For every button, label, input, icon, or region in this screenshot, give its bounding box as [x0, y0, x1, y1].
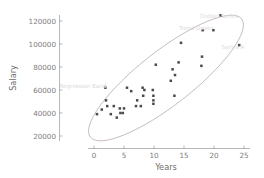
y-axis: 20000400006000080000100000120000 Salary — [8, 15, 63, 141]
x-axis: 0510152025 Years — [88, 146, 250, 173]
annotation-mid-right: Trend Upper — [178, 25, 214, 32]
data-point — [135, 105, 138, 108]
y-axis-tick-labels: 20000400006000080000100000120000 — [29, 17, 57, 141]
data-point — [106, 105, 109, 108]
confidence-ellipse-path — [74, 0, 259, 158]
data-point — [136, 99, 139, 102]
data-point — [171, 68, 174, 71]
y-tick-label: 20000 — [33, 132, 56, 141]
data-point — [119, 107, 122, 110]
x-tick-label: 15 — [179, 151, 188, 160]
data-point — [155, 63, 158, 65]
data-point — [122, 112, 125, 115]
data-point — [174, 74, 177, 77]
data-point — [101, 108, 104, 111]
data-point — [140, 105, 143, 108]
x-tick-label: 25 — [239, 151, 248, 160]
data-point — [152, 103, 155, 106]
annotation-upper-right: Outlier Series — [200, 13, 238, 19]
data-point — [180, 42, 183, 45]
data-point — [141, 86, 144, 89]
x-axis-tick-labels: 0510152025 — [92, 151, 249, 160]
plot-canvas: 20000400006000080000100000120000 Salary … — [0, 0, 264, 178]
data-point — [152, 95, 155, 98]
data-point — [170, 80, 173, 83]
data-point — [200, 65, 203, 68]
data-point — [201, 55, 204, 58]
x-tick-label: 10 — [149, 151, 159, 160]
data-point — [96, 113, 99, 116]
confidence-ellipse — [74, 0, 259, 158]
data-point — [177, 61, 180, 64]
data-point — [119, 112, 122, 115]
annotation-left: Regression Band — [60, 83, 107, 90]
annotation-far-right: Series A — [222, 44, 245, 50]
y-axis-tick-marks — [60, 21, 63, 136]
annotation-group: Outlier SeriesTrend UpperSeries ARegress… — [60, 13, 245, 90]
x-tick-label: 0 — [92, 151, 97, 160]
scatter-plot-figure: 20000400006000080000100000120000 Salary … — [0, 0, 264, 178]
x-tick-label: 20 — [209, 151, 219, 160]
y-axis-title: Salary — [8, 65, 18, 91]
data-point — [130, 90, 133, 93]
data-point — [142, 95, 145, 98]
data-point — [143, 89, 146, 92]
data-point — [113, 105, 116, 108]
y-tick-label: 120000 — [29, 17, 57, 26]
data-point — [173, 95, 176, 98]
y-tick-label: 100000 — [29, 40, 57, 49]
data-point — [126, 86, 129, 89]
data-point — [152, 99, 155, 102]
y-tick-label: 40000 — [33, 109, 56, 118]
data-point — [105, 99, 108, 102]
x-axis-title: Years — [154, 162, 177, 172]
data-point — [152, 89, 155, 92]
data-point — [123, 107, 126, 110]
data-point — [110, 113, 113, 116]
x-axis-tick-marks — [94, 146, 244, 149]
y-tick-label: 60000 — [33, 86, 56, 95]
data-point — [116, 116, 119, 119]
y-tick-label: 80000 — [33, 63, 56, 72]
x-tick-label: 5 — [122, 151, 127, 160]
